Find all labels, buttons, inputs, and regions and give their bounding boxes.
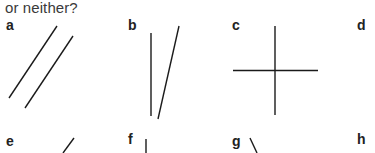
diagonal-line — [250, 138, 257, 153]
panel-e-lines — [63, 138, 74, 153]
panel-b-lines — [151, 26, 179, 119]
panel-a-lines — [9, 26, 73, 108]
panel-g-lines — [250, 138, 257, 153]
parallel-line-2 — [25, 36, 73, 108]
slanted-line — [158, 26, 179, 119]
line-diagram — [0, 0, 375, 153]
parallel-line-1 — [9, 26, 57, 98]
panel-c-lines — [233, 26, 318, 115]
diagonal-line — [63, 138, 74, 153]
